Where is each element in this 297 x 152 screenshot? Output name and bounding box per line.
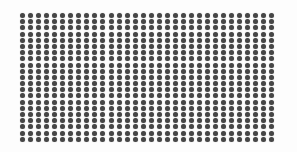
dot [100, 44, 105, 49]
dot [165, 56, 170, 61]
dot [229, 118, 234, 123]
dot [245, 75, 250, 80]
dot [133, 32, 138, 37]
dot [109, 100, 114, 105]
dot [141, 137, 146, 142]
dot [52, 93, 57, 98]
dot [36, 50, 41, 55]
dot [189, 38, 194, 43]
dot [205, 44, 210, 49]
dot [133, 93, 138, 98]
dot [261, 118, 266, 123]
dot [213, 56, 218, 61]
dot [189, 81, 194, 86]
dot [205, 13, 210, 18]
dot [245, 137, 250, 142]
dot [109, 106, 114, 111]
dot [44, 93, 49, 98]
dot [60, 19, 65, 24]
dot [189, 137, 194, 142]
dot [52, 81, 57, 86]
dot [60, 118, 65, 123]
dot [36, 118, 41, 123]
dot [117, 81, 122, 86]
dot [117, 56, 122, 61]
dot [68, 63, 73, 68]
dot [181, 81, 186, 86]
dot [269, 69, 274, 74]
dot [237, 63, 242, 68]
dot [36, 81, 41, 86]
dot [133, 87, 138, 92]
dot [76, 32, 81, 37]
dot [149, 124, 154, 129]
dot [109, 137, 114, 142]
dot [84, 100, 89, 105]
dot [36, 69, 41, 74]
dot [205, 124, 210, 129]
dot [157, 112, 162, 117]
dot [141, 93, 146, 98]
dot [36, 25, 41, 30]
dot [253, 13, 258, 18]
dot [76, 81, 81, 86]
dot [92, 13, 97, 18]
dot [28, 19, 33, 24]
dot [52, 112, 57, 117]
dot [125, 13, 130, 18]
dot [261, 100, 266, 105]
dot [109, 13, 114, 18]
dot [44, 44, 49, 49]
dot [261, 87, 266, 92]
dot [141, 32, 146, 37]
dot [221, 69, 226, 74]
dot [68, 25, 73, 30]
dot [157, 93, 162, 98]
dot [229, 124, 234, 129]
dot [117, 124, 122, 129]
dot [76, 118, 81, 123]
dot [253, 106, 258, 111]
dot [20, 131, 25, 136]
dot [237, 81, 242, 86]
dot [76, 69, 81, 74]
dot [269, 56, 274, 61]
dot [165, 69, 170, 74]
dot [157, 81, 162, 86]
dot [245, 38, 250, 43]
dot [84, 112, 89, 117]
dot [36, 100, 41, 105]
dot [109, 19, 114, 24]
dot [141, 106, 146, 111]
dot [20, 13, 25, 18]
dot [165, 124, 170, 129]
dot [173, 81, 178, 86]
dot [100, 63, 105, 68]
dot [125, 50, 130, 55]
dot [125, 112, 130, 117]
dot [92, 93, 97, 98]
dot [269, 19, 274, 24]
dot [109, 124, 114, 129]
dot [60, 81, 65, 86]
dot [261, 69, 266, 74]
dot [20, 19, 25, 24]
dot [92, 124, 97, 129]
dot [269, 44, 274, 49]
dot [269, 118, 274, 123]
dot [261, 25, 266, 30]
dot [92, 137, 97, 142]
dot [28, 118, 33, 123]
dot [229, 50, 234, 55]
dot [205, 56, 210, 61]
dot [149, 25, 154, 30]
dot [165, 112, 170, 117]
dot [269, 106, 274, 111]
dot [165, 44, 170, 49]
dot [189, 131, 194, 136]
dot [109, 75, 114, 80]
dot [221, 19, 226, 24]
dot [28, 13, 33, 18]
dot [117, 131, 122, 136]
dot [205, 32, 210, 37]
